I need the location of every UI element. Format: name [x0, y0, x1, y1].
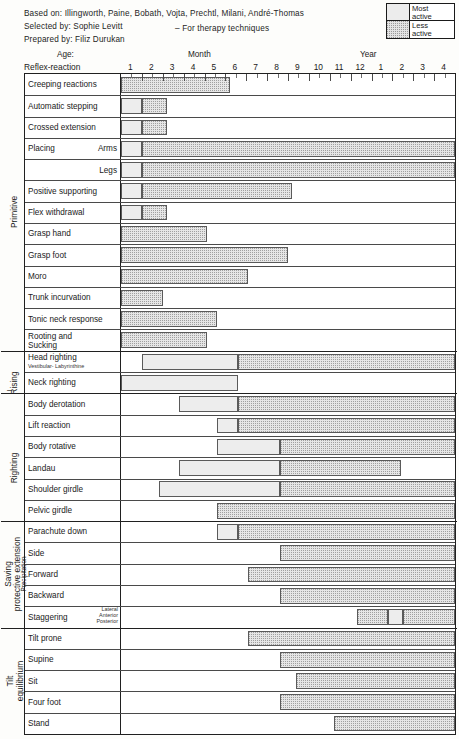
row-separator [25, 372, 455, 373]
row-right-label-posterior: Posterior [96, 619, 118, 625]
row-right-label: Arms [98, 144, 117, 153]
row-label: Lift reaction [28, 421, 70, 430]
row-separator [25, 329, 455, 330]
axis-tick-8: 8 [269, 62, 285, 72]
bar-most [121, 183, 142, 199]
grid-tick-minor [361, 74, 362, 78]
row-label: Pelvic girdle [28, 506, 72, 515]
row-separator [25, 670, 455, 671]
row-separator [25, 691, 455, 692]
legend-less-line2: active [412, 30, 454, 38]
axis-tick-3: 3 [164, 62, 180, 72]
row-label: Forward [28, 570, 58, 579]
row-label: Side [28, 549, 44, 558]
row-separator [25, 564, 455, 565]
row-label: Neck righting [28, 378, 76, 387]
row-label: Stand [28, 719, 49, 728]
grid-tick-minor [131, 74, 132, 78]
row-separator [25, 95, 455, 96]
bar-less [248, 631, 455, 647]
reflex-chart: PrimitiveRisingRightingSavingprotective … [24, 73, 456, 735]
bar-most [388, 609, 403, 625]
grid-tick [184, 74, 185, 81]
bar-less [238, 354, 455, 370]
row-label: Staggering [28, 613, 68, 622]
row-right-label: Legs [99, 166, 117, 175]
grid-tick-minor [340, 74, 341, 78]
row-separator [25, 457, 455, 458]
row-label: Tilt prone [28, 634, 62, 643]
bar-less [296, 673, 455, 689]
axis-word-year: Year [360, 50, 377, 59]
grid-tick-minor [445, 74, 446, 78]
bar-less [142, 183, 292, 199]
axis-tick-10: 10 [310, 62, 326, 72]
grid-tick [372, 74, 373, 81]
bar-less [280, 588, 455, 604]
bar-less [280, 481, 455, 497]
bar-less [238, 418, 455, 434]
bar-most [121, 141, 142, 157]
row-separator [25, 266, 455, 267]
legend-swatch-most-active [387, 4, 410, 20]
grid-tick [434, 74, 435, 81]
row-label: Flex withdrawal [28, 208, 84, 217]
axis-tick-4: 4 [185, 62, 201, 72]
row-label: Backward [28, 591, 64, 600]
axis-tick-2: 2 [394, 62, 410, 72]
group-label-righting: Righting [9, 452, 19, 483]
row-label: Four foot [28, 698, 61, 707]
axis-tick-11: 11 [331, 62, 347, 72]
grid-tick [163, 74, 164, 81]
grid-tick-minor [194, 74, 195, 78]
grid-tick [267, 74, 268, 81]
row-label: Grasp foot [28, 251, 66, 260]
plot-area [121, 74, 455, 734]
group-label-primitive: Primitive [9, 196, 19, 228]
axis-tick-2: 2 [143, 62, 159, 72]
bar-most [121, 98, 142, 114]
row-label: Grasp hand [28, 229, 71, 238]
grid-tick-minor [236, 74, 237, 78]
grid-tick [330, 74, 331, 81]
row-sublabel: Vestibular- Labyrinthine [28, 363, 84, 369]
grid-tick-minor [215, 74, 216, 78]
bar-most [179, 460, 279, 476]
row-label: Body rotative [28, 442, 76, 451]
grid-tick [288, 74, 289, 81]
group-separator [1, 393, 457, 394]
bar-less [238, 396, 455, 412]
grid-tick-minor [257, 74, 258, 78]
grid-tick [225, 74, 226, 81]
row-separator [25, 585, 455, 586]
row-separator [25, 713, 455, 714]
grid-tick-minor [382, 74, 383, 78]
row-separator [25, 244, 455, 245]
row-separator [25, 202, 455, 203]
axis-word-age: Age: [57, 50, 74, 59]
row-label: Crossed extension [28, 123, 96, 132]
grid-tick-minor [278, 74, 279, 78]
bar-less [142, 162, 455, 178]
bar-less [334, 716, 455, 732]
row-separator [25, 159, 455, 160]
grid-tick-minor [298, 74, 299, 78]
axis-word-month: Month [188, 50, 211, 59]
bar-less [280, 652, 455, 668]
row-label: Placing [28, 144, 55, 153]
grid-tick-minor [403, 74, 404, 78]
row-label: Tonic neck response [28, 315, 103, 324]
group-label-tilt: Tilt [5, 675, 15, 686]
bar-most [179, 396, 237, 412]
bar-less [280, 545, 455, 561]
axis-tick-6: 6 [227, 62, 243, 72]
bar-less [142, 98, 167, 114]
bar-less [142, 120, 167, 136]
grid-tick [351, 74, 352, 81]
bar-less [121, 290, 163, 306]
row-label-column: Creeping reactionsAutomatic steppingCros… [25, 74, 121, 734]
bar-less [217, 503, 455, 519]
grid-tick-minor [152, 74, 153, 78]
row-sublabel: Sucking [28, 341, 57, 350]
credit-note: – For therapy techniques [175, 24, 269, 33]
